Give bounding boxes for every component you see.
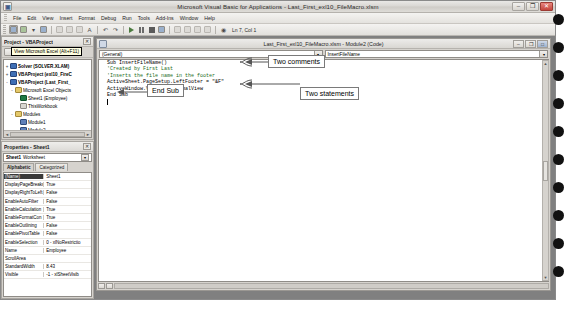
scroll-right-icon[interactable]: ► — [86, 132, 90, 137]
toolbar-grip[interactable] — [3, 25, 6, 34]
property-value[interactable]: Sheet1 — [43, 174, 91, 179]
property-key: Name — [4, 248, 43, 253]
property-key: DisplayRightToLeft — [4, 190, 43, 195]
code-restore-button[interactable]: ❐ — [525, 40, 536, 48]
menu-debug[interactable]: Debug — [98, 14, 119, 22]
property-row[interactable]: ScrollArea — [4, 255, 91, 263]
property-row[interactable]: EnableOutliningFalse — [4, 222, 91, 230]
menu-tools[interactable]: Tools — [135, 14, 153, 22]
save-icon[interactable] — [39, 25, 48, 34]
project-explorer-icon[interactable] — [173, 25, 182, 34]
object-browser-icon[interactable] — [193, 25, 202, 34]
copy-icon[interactable] — [65, 25, 74, 34]
full-module-view-icon[interactable] — [106, 283, 113, 289]
menu-edit[interactable]: Edit — [24, 14, 39, 22]
property-row[interactable]: EnableFormatConTrue — [4, 214, 91, 222]
property-value[interactable]: False — [43, 223, 91, 228]
tree-item[interactable]: -Modules — [4, 110, 91, 118]
property-value[interactable]: True — [43, 207, 91, 212]
property-value[interactable]: True — [43, 215, 91, 220]
property-row[interactable]: DisplayRightToLeftFalse — [4, 189, 91, 197]
property-value[interactable]: False — [43, 190, 91, 195]
tree-item[interactable]: Module1 — [4, 118, 91, 126]
chevron-down-icon[interactable]: ▾ — [539, 51, 547, 57]
page-edge-dots — [550, 0, 566, 313]
property-value[interactable]: False — [43, 231, 91, 236]
property-value[interactable]: -1 - xlSheetVisib — [43, 272, 91, 277]
run-icon[interactable] — [127, 25, 136, 34]
tab-categorized[interactable]: Categorized — [35, 163, 68, 171]
tree-item[interactable]: Sheet1 (Employee) — [4, 94, 91, 102]
design-mode-icon[interactable] — [157, 25, 166, 34]
module-icon — [20, 119, 27, 125]
project-explorer-close-icon[interactable]: ✕ — [83, 38, 91, 45]
help-icon[interactable]: ◉ — [219, 25, 228, 34]
property-value[interactable]: True — [43, 182, 91, 187]
menu-window[interactable]: Window — [177, 14, 201, 22]
scroll-down-icon[interactable]: ▼ — [544, 275, 548, 280]
scroll-thumb[interactable] — [10, 132, 85, 137]
menu-run[interactable]: Run — [119, 14, 135, 22]
project-explorer-header: Project - VBAProject ✕ — [2, 37, 93, 47]
properties-object-combo[interactable]: Sheet1 Worksheet ▾ — [3, 153, 92, 162]
menu-addins[interactable]: Add-Ins — [153, 14, 177, 22]
menu-grip[interactable] — [4, 14, 7, 22]
tree-item[interactable]: -VBAProject (Last_First_ — [4, 78, 91, 86]
property-value[interactable]: False — [43, 199, 91, 204]
properties-close-icon[interactable]: ✕ — [83, 143, 91, 150]
property-row[interactable]: EnableSelection0 - xlNoRestrictio — [4, 239, 91, 247]
tab-alphabetic[interactable]: Alphabetic — [3, 163, 34, 171]
code-hscroll-track[interactable] — [114, 283, 549, 289]
menu-insert[interactable]: Insert — [56, 14, 75, 22]
property-row[interactable]: Visible-1 - xlSheetVisib — [4, 271, 91, 279]
code-maximize-button[interactable]: □ — [537, 40, 548, 48]
code-scroll-thumb[interactable] — [543, 161, 548, 181]
property-row[interactable]: (Name)Sheet1 — [4, 173, 91, 181]
toolbox-icon[interactable] — [203, 25, 212, 34]
project-tree[interactable]: +Solver (SOLVER.XLAM)+VBAProject (exl10_… — [3, 59, 92, 138]
cut-icon[interactable] — [55, 25, 64, 34]
properties-list[interactable]: (Name)Sheet1DisplayPageBreaksTrueDisplay… — [3, 172, 92, 297]
code-horizontal-scrollbar[interactable] — [97, 282, 550, 290]
insert-userform-icon[interactable] — [19, 25, 28, 34]
scroll-left-icon[interactable]: ◄ — [5, 132, 9, 137]
procedure-view-icon[interactable] — [98, 283, 105, 289]
property-row[interactable]: DisplayPageBreaksTrue — [4, 181, 91, 189]
menu-file[interactable]: File — [10, 14, 24, 22]
tree-item[interactable]: +Solver (SOLVER.XLAM) — [4, 62, 91, 70]
menu-view[interactable]: View — [39, 14, 56, 22]
property-row[interactable]: EnableAutoFilterFalse — [4, 198, 91, 206]
annotation-end-sub: End Sub — [147, 84, 184, 97]
properties-panel: Properties - Sheet1 ✕ Sheet1 Worksheet ▾… — [1, 141, 94, 299]
property-value[interactable]: Employee — [43, 248, 91, 253]
redo-icon[interactable]: ↷ — [111, 25, 120, 34]
procedure-combo[interactable]: InsertFileName ▾ — [325, 50, 549, 58]
tree-horizontal-scrollbar[interactable]: ◄ ► — [4, 130, 91, 137]
property-value[interactable]: 0 - xlNoRestrictio — [43, 240, 91, 245]
code-minimize-button[interactable]: – — [513, 40, 524, 48]
tree-item-label: VBAProject (exl10_FireC — [18, 72, 72, 77]
reset-icon[interactable] — [147, 25, 156, 34]
undo-icon[interactable]: ↶ — [101, 25, 110, 34]
menu-help[interactable]: Help — [201, 14, 218, 22]
object-combo-value: (General) — [102, 52, 122, 57]
code-vertical-scrollbar[interactable]: ▲ ▼ — [542, 60, 549, 281]
property-row[interactable]: StandardWidth8.43 — [4, 263, 91, 271]
chevron-down-icon[interactable]: ▾ — [29, 25, 38, 34]
break-icon[interactable] — [137, 25, 146, 34]
scroll-up-icon[interactable]: ▲ — [544, 61, 548, 66]
properties-window-icon[interactable] — [183, 25, 192, 34]
find-icon[interactable]: A — [85, 25, 94, 34]
view-excel-icon[interactable] — [9, 25, 18, 34]
tree-item[interactable]: ThisWorkbook — [4, 102, 91, 110]
property-value[interactable]: 8.43 — [43, 264, 91, 269]
property-row[interactable]: EnableCalculationTrue — [4, 206, 91, 214]
property-row[interactable]: EnablePivotTableFalse — [4, 230, 91, 238]
paste-icon[interactable] — [75, 25, 84, 34]
property-row[interactable]: NameEmployee — [4, 247, 91, 255]
menu-format[interactable]: Format — [75, 14, 97, 22]
chevron-down-icon[interactable]: ▾ — [81, 154, 89, 161]
tree-item[interactable]: -Microsoft Excel Objects — [4, 86, 91, 94]
tree-item[interactable]: +VBAProject (exl10_FireC — [4, 70, 91, 78]
code-window-controls: – ❐ □ — [513, 40, 550, 48]
